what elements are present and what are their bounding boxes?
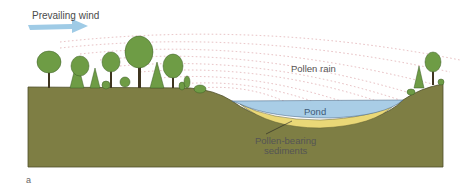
forest-trees-left — [37, 36, 206, 93]
prevailing-wind-label: Prevailing wind — [32, 10, 99, 21]
wind-arrow-icon — [28, 19, 88, 33]
sediments-label-line2: sediments — [255, 146, 316, 156]
pollen-diagram — [0, 0, 466, 191]
pollen-rain-label: Pollen rain — [291, 63, 336, 74]
panel-letter: a — [26, 175, 31, 185]
ground-cross-section — [28, 84, 443, 167]
pond-label: Pond — [304, 106, 326, 117]
sediments-label: Pollen-bearing sediments — [255, 136, 316, 156]
